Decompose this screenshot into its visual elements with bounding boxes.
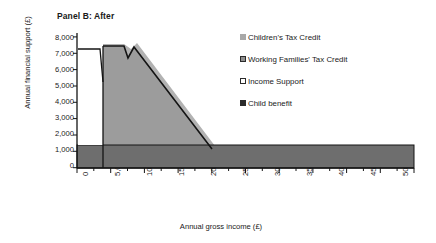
legend-item-childrens-tax-credit: Children's Tax Credit bbox=[240, 26, 436, 48]
legend-item-child-benefit: Child benefit bbox=[240, 92, 436, 114]
series-area-income-support bbox=[78, 49, 103, 145]
legend-item-working-families-tax-credit: Working Families' Tax Credit bbox=[240, 48, 436, 70]
chart-legend: Children's Tax Credit Working Families' … bbox=[240, 26, 436, 114]
series-area-child-benefit bbox=[77, 145, 414, 168]
legend-label-income-support: Income Support bbox=[248, 77, 304, 86]
legend-swatch-child-benefit bbox=[240, 100, 246, 106]
chart-panel-b-after: Panel B: After Annual financial support … bbox=[0, 0, 436, 243]
legend-swatch-childrens-tax-credit bbox=[240, 34, 246, 40]
legend-label-working-families-tax-credit: Working Families' Tax Credit bbox=[248, 55, 347, 64]
legend-swatch-working-families-tax-credit bbox=[240, 56, 246, 62]
legend-item-income-support: Income Support bbox=[240, 70, 436, 92]
legend-label-child-benefit: Child benefit bbox=[248, 99, 292, 108]
legend-swatch-income-support bbox=[240, 78, 246, 84]
legend-label-childrens-tax-credit: Children's Tax Credit bbox=[248, 33, 320, 42]
x-axis-ticks bbox=[77, 168, 414, 173]
